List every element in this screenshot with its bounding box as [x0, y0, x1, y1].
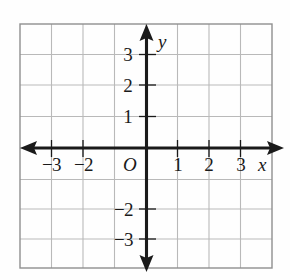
x-tick-label-neg3: −3: [36, 155, 67, 174]
x-tick-label-neg2: −2: [68, 155, 99, 174]
coordinate-plane-figure: 3 2 1 −2 −3 −3 −2 1 2 3 O y x: [0, 0, 290, 280]
y-tick-label-2: 2: [117, 76, 139, 95]
x-tick-label-3: 3: [230, 155, 252, 174]
y-tick-label-3: 3: [117, 45, 139, 64]
coordinate-grid-canvas: [0, 0, 290, 280]
origin-label: O: [123, 155, 137, 174]
y-tick-label-neg2: −2: [108, 200, 139, 219]
y-tick-label-neg3: −3: [108, 230, 139, 249]
x-axis-label: x: [258, 155, 266, 174]
y-axis-label: y: [158, 32, 166, 51]
x-tick-label-1: 1: [167, 155, 189, 174]
y-tick-label-1: 1: [117, 107, 139, 126]
x-tick-label-2: 2: [198, 155, 220, 174]
